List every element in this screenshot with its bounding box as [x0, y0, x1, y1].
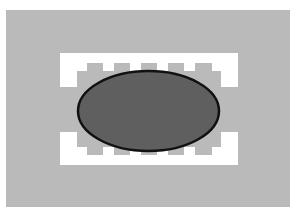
- central-ellipse: [78, 71, 219, 151]
- diagram-canvas: [0, 0, 295, 212]
